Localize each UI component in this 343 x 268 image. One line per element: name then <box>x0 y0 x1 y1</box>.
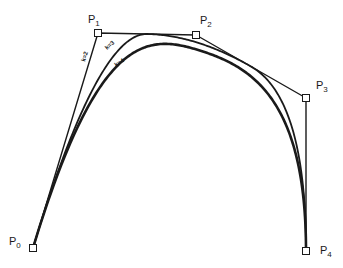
control-point-label-p4: P4 <box>320 245 332 259</box>
control-point-label-p1: P1 <box>88 14 100 28</box>
curve-order-2 <box>33 33 306 251</box>
control-point-marker-p4 <box>303 248 310 255</box>
order-labels-group: k=2k=3k=4 <box>80 39 125 68</box>
control-point-marker-p0 <box>30 245 37 252</box>
b-spline-diagram: k=2k=3k=4 <box>0 0 343 268</box>
control-point-marker-p2 <box>193 32 200 39</box>
curves-group <box>33 33 306 251</box>
control-point-label-p0: P0 <box>9 236 21 250</box>
control-point-label-p3: P3 <box>316 80 328 94</box>
control-point-marker-p3 <box>303 95 310 102</box>
order-label-k2: k=2 <box>80 50 89 62</box>
order-label-k3: k=3 <box>104 39 116 51</box>
curve-order-3 <box>33 34 306 251</box>
control-point-marker-p1 <box>95 30 102 37</box>
control-point-label-p2: P2 <box>200 15 212 29</box>
